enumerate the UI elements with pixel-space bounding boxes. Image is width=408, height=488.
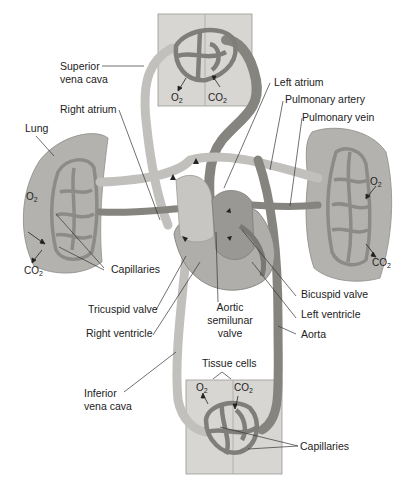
label-bicuspid-valve: Bicuspid valve (301, 288, 368, 300)
label-lung: Lung (25, 122, 49, 134)
heart (174, 175, 274, 290)
label-aortic-semilunar-valve-3: valve (218, 327, 243, 339)
label-superior-vena-cava-2: vena cava (60, 73, 108, 85)
co2-label-right-lung: CO2 (372, 257, 391, 269)
label-right-ventricle: Right ventricle (86, 327, 153, 339)
label-right-atrium: Right atrium (60, 103, 117, 115)
label-aortic-semilunar-valve-1: Aortic (217, 301, 244, 313)
circulatory-system-diagram: Superior vena cava Right atrium Lung Lef… (0, 0, 408, 488)
label-aortic-semilunar-valve-2: semilunar (207, 314, 253, 326)
label-capillaries-lung: Capillaries (111, 263, 160, 275)
label-tissue-cells: Tissue cells (202, 357, 256, 369)
label-left-atrium: Left atrium (274, 76, 324, 88)
label-tricuspid-valve: Tricuspid valve (88, 303, 158, 315)
label-left-ventricle: Left ventricle (301, 308, 361, 320)
label-aorta: Aorta (301, 328, 326, 340)
label-pulmonary-artery: Pulmonary artery (285, 93, 366, 105)
label-inferior-vena-cava-1: Inferior (84, 387, 117, 399)
label-pulmonary-vein: Pulmonary vein (302, 111, 375, 123)
label-capillaries-tissue: Capillaries (300, 440, 349, 452)
label-superior-vena-cava-1: Superior (60, 60, 100, 72)
label-inferior-vena-cava-2: vena cava (84, 400, 132, 412)
